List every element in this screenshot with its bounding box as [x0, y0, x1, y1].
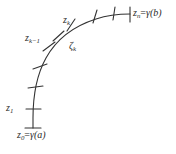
label-zkm1-subscript: k−1	[29, 37, 40, 44]
label-z1-subscript: 1	[10, 107, 13, 114]
tick-partition-3	[33, 64, 47, 69]
label-z0-argument: (a)	[34, 129, 46, 140]
contour-curve	[33, 14, 130, 128]
label-z0-gamma-a: z0=γ(a)	[17, 130, 46, 142]
tick-partition-7	[93, 10, 97, 23]
label-zeta-subscript: k	[73, 45, 76, 52]
label-zn-argument: (b)	[150, 7, 162, 18]
label-zk: zk	[63, 15, 70, 27]
figure-container: z0=γ(a) z1 zk−1 zk ζk zn=γ(b)	[0, 0, 176, 154]
label-zk-subscript: k	[67, 19, 70, 26]
label-z1: z1	[6, 103, 13, 115]
tick-partition-8	[113, 7, 115, 20]
label-zk-minus-1: zk−1	[25, 33, 40, 45]
label-zeta-k: ζk	[69, 41, 76, 53]
label-zn-gamma-b: zn=γ(b)	[133, 8, 162, 20]
tick-zeta-k	[53, 31, 64, 41]
